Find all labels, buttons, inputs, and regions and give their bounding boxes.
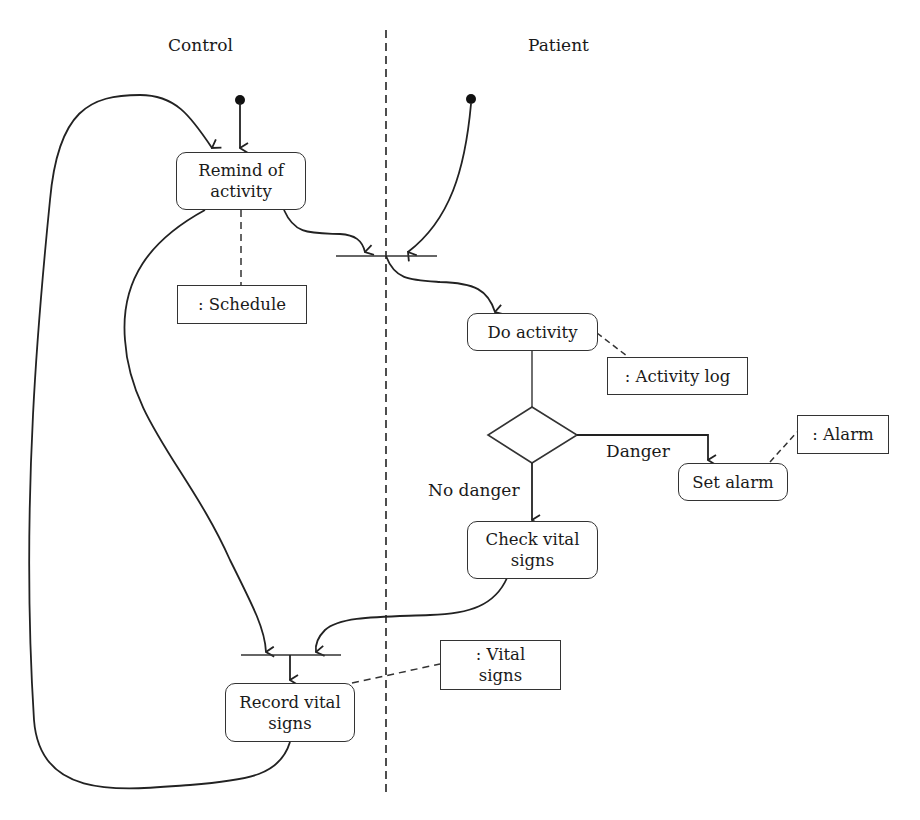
activity-label: Check vital signs xyxy=(478,529,588,571)
swimlane-label-patient: Patient xyxy=(528,35,589,55)
object-label: : Vital signs xyxy=(461,644,541,686)
initial-node-patient xyxy=(466,94,476,104)
activity-label: Remind of activity xyxy=(191,160,291,202)
activity-do-activity: Do activity xyxy=(467,313,598,351)
object-label: : Schedule xyxy=(198,294,286,315)
activity-set-alarm: Set alarm xyxy=(678,463,788,501)
object-activity-log: : Activity log xyxy=(607,357,748,395)
object-vital-signs: : Vital signs xyxy=(440,640,561,690)
object-label: : Activity log xyxy=(625,366,730,387)
object-alarm: : Alarm xyxy=(797,415,889,454)
activity-label: Record vital signs xyxy=(235,692,345,734)
activity-remind-of-activity: Remind of activity xyxy=(176,152,306,210)
object-schedule: : Schedule xyxy=(177,285,307,324)
guard-no-danger: No danger xyxy=(428,480,520,500)
activity-check-vital-signs: Check vital signs xyxy=(467,521,598,579)
decision-node xyxy=(488,407,577,463)
object-label: : Alarm xyxy=(812,424,873,445)
activity-record-vital-signs: Record vital signs xyxy=(225,683,355,742)
activity-label: Do activity xyxy=(488,322,578,343)
diagram-edges xyxy=(0,0,920,820)
activity-label: Set alarm xyxy=(692,472,773,493)
swimlane-label-control: Control xyxy=(168,35,233,55)
guard-danger: Danger xyxy=(606,441,670,461)
